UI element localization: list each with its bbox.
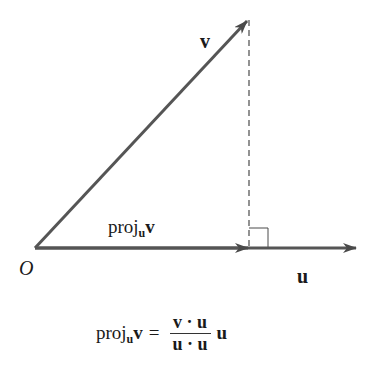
formula-lhs-arg: v xyxy=(133,322,143,343)
formula-lhs-subscript: u xyxy=(127,332,134,346)
projection-label: projuv xyxy=(108,217,155,236)
right-angle-marker xyxy=(249,228,268,248)
formula-fraction: v · u u · u xyxy=(170,313,211,354)
vector-v-label: v xyxy=(200,31,210,51)
formula-lhs-main: proj xyxy=(96,322,127,343)
formula-equals: = xyxy=(149,322,160,344)
vector-v-arrow xyxy=(35,21,247,248)
projection-diagram: v O u projuv projuv = v · u u · u u xyxy=(0,0,377,373)
projection-formula: projuv = v · u u · u u xyxy=(96,313,227,354)
projection-label-subscript: u xyxy=(139,226,146,240)
formula-lhs: projuv xyxy=(96,322,143,344)
projection-label-arg: v xyxy=(145,216,155,237)
origin-label: O xyxy=(19,258,33,278)
vector-u-label: u xyxy=(297,266,308,286)
formula-trailing-u: u xyxy=(217,322,228,344)
projection-label-main: proj xyxy=(108,216,139,237)
formula-denominator: u · u xyxy=(170,335,211,354)
formula-numerator: v · u xyxy=(170,313,210,332)
